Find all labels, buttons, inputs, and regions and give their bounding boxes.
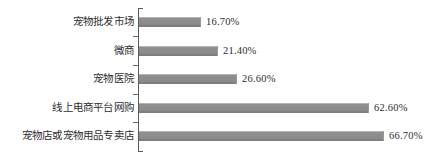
bar	[139, 103, 369, 113]
value-label: 21.40%	[223, 44, 257, 58]
bar-chart: 宠物批发市场 16.70% 微商 21.40% 宠物医院 26.60% 线上电商…	[0, 0, 440, 158]
bar-row: 宠物批发市场 16.70%	[0, 8, 440, 36]
bar-container	[139, 131, 384, 141]
value-label: 66.70%	[389, 129, 423, 143]
bar-row: 宠物医院 26.60%	[0, 65, 440, 93]
bar-container	[139, 103, 369, 113]
value-label: 62.60%	[374, 101, 408, 115]
bar-container	[139, 46, 218, 56]
bar-container	[139, 17, 201, 27]
bar-container	[139, 74, 237, 84]
bar	[139, 74, 237, 84]
bar	[139, 131, 384, 141]
category-label: 宠物批发市场	[73, 16, 138, 28]
bar-row: 线上电商平台网购 62.60%	[0, 94, 440, 122]
value-label: 16.70%	[206, 15, 240, 29]
bar	[139, 46, 218, 56]
category-label: 微商	[114, 45, 138, 57]
axis-bottom-cap	[138, 151, 143, 152]
value-label: 26.60%	[242, 72, 276, 86]
bar-row: 微商 21.40%	[0, 37, 440, 65]
category-label: 线上电商平台网购	[52, 102, 138, 114]
category-label: 宠物医院	[93, 73, 138, 85]
bar-row: 宠物店或宠物用品专卖店 66.70%	[0, 122, 440, 150]
category-label: 宠物店或宠物用品专卖店	[22, 130, 138, 142]
plot-area: 宠物批发市场 16.70% 微商 21.40% 宠物医院 26.60% 线上电商…	[0, 0, 440, 158]
bar	[139, 17, 201, 27]
